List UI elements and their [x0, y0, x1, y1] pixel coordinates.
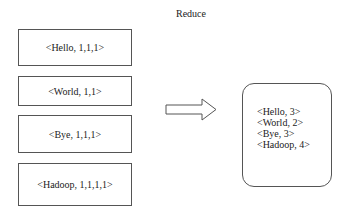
output-line-bye: <Bye, 3>: [257, 128, 331, 139]
input-box-hadoop: <Hadoop, 1,1,1,1>: [18, 163, 132, 206]
input-box-world: <World, 1,1>: [18, 76, 132, 106]
diagram-title: Reduce: [176, 8, 206, 19]
input-label: <Hello, 1,1,1>: [46, 42, 105, 53]
output-box: <Hello, 3> <World, 2> <Bye, 3> <Hadoop, …: [242, 83, 332, 187]
output-line-hadoop: <Hadoop, 4>: [257, 139, 331, 150]
input-box-hello: <Hello, 1,1,1>: [18, 29, 132, 66]
input-label: <World, 1,1>: [48, 86, 102, 97]
right-arrow-icon: [164, 96, 220, 124]
output-line-hello: <Hello, 3>: [257, 106, 331, 117]
input-label: <Bye, 1,1,1>: [49, 129, 101, 140]
input-box-bye: <Bye, 1,1,1>: [18, 115, 132, 153]
output-line-world: <World, 2>: [257, 117, 331, 128]
input-label: <Hadoop, 1,1,1,1>: [37, 179, 112, 190]
